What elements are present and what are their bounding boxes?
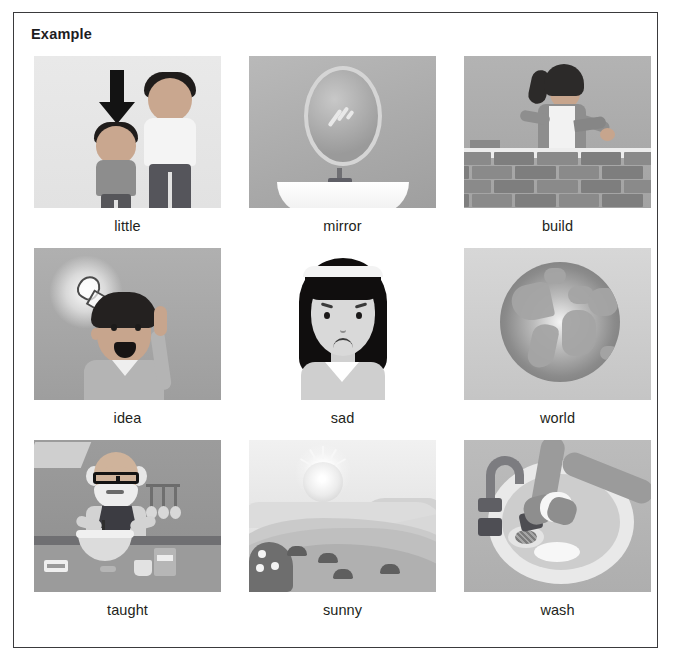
picture-wash[interactable] — [464, 440, 651, 592]
brick — [537, 152, 578, 165]
girl-collar — [325, 362, 359, 382]
landmass-australia — [600, 346, 618, 360]
brick — [464, 194, 469, 207]
sad-scene — [249, 248, 436, 400]
brick — [602, 194, 643, 207]
picture-word-cell-mirror[interactable]: mirror — [249, 56, 436, 236]
picture-sad[interactable] — [249, 248, 436, 400]
flower — [256, 564, 264, 572]
small-child-head — [96, 126, 136, 164]
tall-child-shirt — [144, 118, 196, 166]
shrub — [333, 569, 353, 579]
picture-label: little — [114, 216, 140, 236]
glasses-icon — [93, 472, 139, 484]
idea-scene — [34, 248, 221, 400]
picture-word-cell-wash[interactable]: wash — [464, 440, 651, 620]
picture-word-cell-sad[interactable]: sad — [249, 248, 436, 428]
sunny-scene — [249, 440, 436, 592]
brick-row — [464, 180, 651, 193]
worksheet-frame: Example — [13, 12, 658, 648]
brick-wall — [464, 152, 651, 208]
measuring-cup — [134, 560, 152, 576]
picture-label: idea — [114, 408, 142, 428]
landmass-south-america — [526, 322, 561, 370]
brick — [464, 180, 491, 193]
picture-label: taught — [107, 600, 148, 620]
boy-eye — [135, 324, 141, 331]
picture-label: sad — [331, 408, 355, 428]
boy-collar — [112, 360, 138, 376]
brick-row — [464, 152, 651, 165]
kitchen-extractor-hood — [34, 442, 91, 468]
picture-word-cell-world[interactable]: world — [464, 248, 651, 428]
picture-word-cell-build[interactable]: build — [464, 56, 651, 236]
down-arrow-icon — [110, 70, 124, 104]
boy-pointing-finger — [154, 306, 167, 336]
butter-pack — [44, 560, 68, 572]
wash-scene — [464, 440, 651, 592]
hanging-utensil — [150, 486, 153, 510]
brick — [494, 180, 535, 193]
boy-eye — [111, 324, 117, 331]
picture-word-cell-idea[interactable]: idea — [34, 248, 221, 428]
shrub — [318, 553, 338, 563]
landmass-asia — [588, 288, 618, 316]
builder-hand — [600, 128, 615, 141]
man-mouth — [106, 490, 124, 494]
example-heading: Example — [31, 26, 92, 42]
sink-basin — [277, 182, 409, 208]
picture-word-grid: little mirror — [34, 56, 651, 620]
landmass-north-america — [509, 280, 556, 324]
brick — [602, 166, 643, 179]
girl-nose — [340, 324, 346, 333]
mixing-bowl-rim — [76, 530, 134, 538]
brick — [472, 194, 513, 207]
grid-row: idea — [34, 248, 651, 428]
brick — [581, 180, 622, 193]
flour-bag — [154, 548, 176, 576]
world-scene — [464, 248, 651, 400]
build-scene — [464, 56, 651, 208]
picture-word-cell-sunny[interactable]: sunny — [249, 440, 436, 620]
sun-icon — [303, 462, 343, 502]
picture-build[interactable] — [464, 56, 651, 208]
girl-eye — [324, 312, 330, 319]
brick — [515, 194, 556, 207]
mirror-scene — [249, 56, 436, 208]
brick — [464, 166, 469, 179]
brick — [581, 152, 622, 165]
picture-little[interactable] — [34, 56, 221, 208]
brick — [515, 166, 556, 179]
tall-child-head — [148, 78, 192, 122]
picture-taught[interactable] — [34, 440, 221, 592]
girl-eye — [356, 312, 362, 319]
man-beard — [94, 484, 138, 508]
brick-row — [464, 194, 643, 207]
hanging-utensil — [174, 486, 177, 510]
picture-label: world — [540, 408, 575, 428]
brick — [472, 166, 513, 179]
landmass-africa — [562, 310, 596, 356]
girl-headband — [303, 266, 383, 277]
picture-word-cell-taught[interactable]: taught — [34, 440, 221, 620]
globe-icon — [500, 262, 620, 382]
picture-label: sunny — [323, 600, 362, 620]
picture-idea[interactable] — [34, 248, 221, 400]
tap-valve — [478, 498, 502, 512]
picture-label: build — [542, 216, 573, 236]
flower — [271, 562, 279, 570]
picture-sunny[interactable] — [249, 440, 436, 592]
brick — [464, 152, 491, 165]
brick — [624, 180, 651, 193]
picture-mirror[interactable] — [249, 56, 436, 208]
girl-fringe — [305, 274, 381, 300]
picture-world[interactable] — [464, 248, 651, 400]
picture-word-cell-little[interactable]: little — [34, 56, 221, 236]
tap-valve — [478, 518, 502, 536]
grid-row: little mirror — [34, 56, 651, 236]
picture-label: mirror — [323, 216, 361, 236]
flower — [258, 550, 266, 558]
spoon-icon — [100, 566, 116, 572]
hanging-utensil — [162, 486, 165, 510]
tap-icon — [486, 456, 524, 484]
